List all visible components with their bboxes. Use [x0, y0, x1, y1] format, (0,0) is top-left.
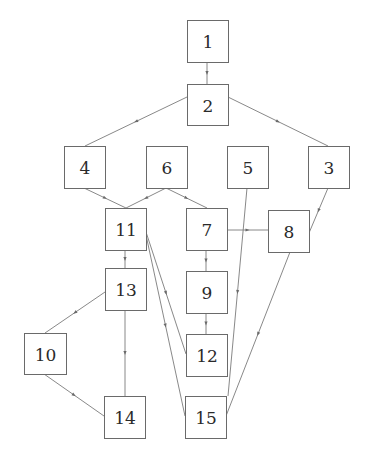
edge-11-to-13 — [123, 250, 126, 268]
node-label: 11 — [115, 220, 137, 240]
node-13: 13 — [106, 269, 147, 311]
arrowhead-icon — [204, 322, 207, 326]
edge-7-to-8 — [227, 228, 268, 231]
node-label: 2 — [203, 96, 214, 116]
arrowhead-icon — [123, 257, 126, 261]
node-label: 6 — [162, 158, 173, 178]
node-label: 15 — [195, 408, 217, 428]
edge-9-to-12 — [204, 313, 207, 334]
edge-5-to-15 — [228, 188, 247, 396]
arrowhead-icon — [134, 119, 138, 122]
edge-10-to-14 — [44, 374, 104, 416]
node-11: 11 — [106, 209, 147, 251]
dependency-graph: 124653117813910121415 — [0, 0, 371, 464]
node-label: 8 — [284, 222, 295, 242]
edge-13-to-14 — [123, 310, 126, 396]
node-2: 2 — [188, 85, 229, 126]
arrowhead-icon — [184, 196, 188, 199]
edge-11-to-12 — [146, 232, 186, 354]
edge-6-to-7 — [166, 188, 207, 208]
node-label: 14 — [114, 408, 136, 428]
edge-3-to-8 — [309, 188, 328, 233]
nodes-layer: 124653117813910121415 — [25, 21, 350, 439]
edge-2-to-3 — [228, 97, 328, 146]
node-15: 15 — [186, 397, 227, 439]
arrowhead-icon — [144, 196, 148, 199]
node-5: 5 — [228, 147, 269, 189]
node-8: 8 — [269, 211, 310, 253]
node-10: 10 — [25, 334, 67, 375]
arrowhead-icon — [204, 259, 207, 263]
node-label: 3 — [324, 158, 335, 178]
arrowhead-icon — [123, 351, 126, 355]
edge-7-to-9 — [204, 250, 207, 271]
arrowhead-icon — [318, 208, 321, 212]
arrowhead-icon — [164, 291, 167, 295]
edge-6-to-11 — [126, 188, 166, 208]
node-7: 7 — [187, 209, 228, 251]
node-label: 12 — [196, 346, 218, 366]
node-9: 9 — [187, 272, 228, 314]
edge-11-to-15 — [146, 235, 185, 416]
node-6: 6 — [147, 147, 188, 189]
node-label: 4 — [80, 158, 91, 178]
node-4: 4 — [65, 147, 106, 189]
arrowhead-icon — [276, 119, 280, 122]
edge-8-to-15 — [226, 252, 290, 416]
node-label: 1 — [203, 32, 214, 52]
arrowhead-icon — [246, 228, 250, 231]
node-14: 14 — [105, 397, 146, 439]
edge-1-to-2 — [205, 62, 208, 84]
node-label: 13 — [115, 280, 137, 300]
edge-13-to-10 — [45, 292, 105, 333]
node-label: 5 — [243, 158, 254, 178]
arrowhead-icon — [103, 196, 107, 199]
arrowhead-icon — [73, 310, 77, 314]
arrowhead-icon — [257, 332, 260, 336]
node-label: 10 — [35, 345, 57, 365]
node-label: 7 — [202, 220, 213, 240]
node-label: 9 — [202, 283, 213, 303]
node-12: 12 — [187, 335, 228, 377]
arrowhead-icon — [71, 393, 75, 397]
node-3: 3 — [309, 147, 350, 189]
arrowhead-icon — [205, 71, 208, 75]
edge-2-to-4 — [85, 97, 187, 146]
edge-4-to-11 — [84, 188, 126, 208]
node-1: 1 — [188, 21, 229, 63]
